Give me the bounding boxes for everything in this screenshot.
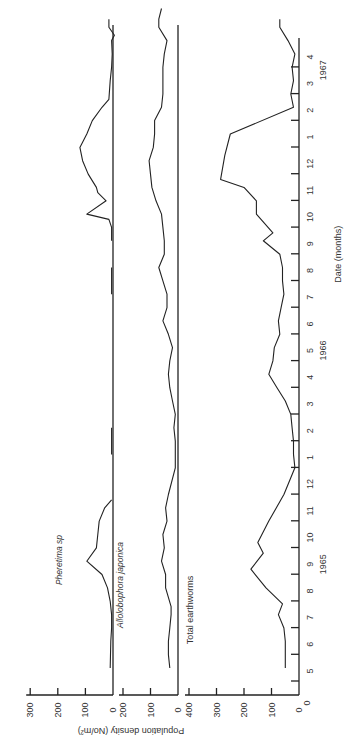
date-tick-label: 6 — [305, 642, 315, 647]
date-tick-label: 5 — [305, 348, 315, 353]
date-tick-label: 8 — [305, 588, 315, 593]
value-tick-label: 200 — [53, 702, 63, 717]
data-lines — [80, 9, 295, 669]
year-label: 1966 — [318, 341, 328, 361]
chart-labels: 0100200300Pheretima sp0100200Allolobopho… — [25, 54, 343, 736]
panel-title: Pheretima sp — [54, 535, 64, 585]
date-tick-label: 4 — [305, 54, 315, 59]
year-label: 1967 — [318, 60, 328, 80]
date-tick-label: 10 — [305, 532, 315, 542]
value-tick-label: 300 — [25, 702, 35, 717]
date-tick-label: 9 — [305, 562, 315, 567]
date-tick-label: 1 — [305, 455, 315, 460]
date-tick-label: 12 — [305, 159, 315, 169]
origin-label: 0 — [302, 700, 312, 705]
date-tick-label: 5 — [305, 668, 315, 673]
date-tick-label: 2 — [305, 108, 315, 113]
date-tick-label: 3 — [305, 401, 315, 406]
value-tick-label: 100 — [80, 702, 90, 717]
y-axis-title: Population density (No/m²) — [78, 726, 185, 736]
date-tick-label: 11 — [305, 186, 315, 195]
earthworm-population-chart: 0100200300Pheretima sp0100200Allolobopho… — [0, 0, 358, 755]
value-tick-label: 200 — [118, 702, 128, 717]
value-tick-label: 0 — [108, 707, 118, 712]
date-tick-label: 11 — [305, 506, 315, 515]
date-tick-label: 7 — [305, 295, 315, 300]
date-tick-label: 1 — [305, 134, 315, 139]
chart-axes — [26, 25, 299, 695]
date-tick-label: 9 — [305, 241, 315, 246]
date-tick-label: 8 — [305, 268, 315, 273]
value-tick-label: 0 — [294, 707, 304, 712]
series-line — [149, 9, 175, 669]
value-tick-label: 300 — [212, 702, 222, 717]
series-line — [221, 19, 295, 668]
year-label: 1965 — [318, 554, 328, 574]
value-tick-label: 100 — [267, 702, 277, 717]
date-tick-label: 7 — [305, 615, 315, 620]
date-tick-label: 4 — [305, 375, 315, 380]
value-tick-label: 100 — [146, 702, 156, 717]
date-tick-label: 2 — [305, 428, 315, 433]
panel-title: Allolobophora japonica — [115, 542, 125, 629]
series-line — [80, 19, 115, 241]
x-axis-title: Date (months) — [333, 226, 343, 283]
date-tick-label: 12 — [305, 479, 315, 489]
series-line — [87, 500, 112, 668]
date-tick-label: 3 — [305, 81, 315, 86]
date-tick-label: 6 — [305, 321, 315, 326]
date-tick-label: 10 — [305, 212, 315, 222]
panel-title: Total earthworms — [185, 575, 195, 644]
value-tick-label: 400 — [184, 702, 194, 717]
value-tick-label: 200 — [239, 702, 249, 717]
value-tick-label: 0 — [173, 707, 183, 712]
